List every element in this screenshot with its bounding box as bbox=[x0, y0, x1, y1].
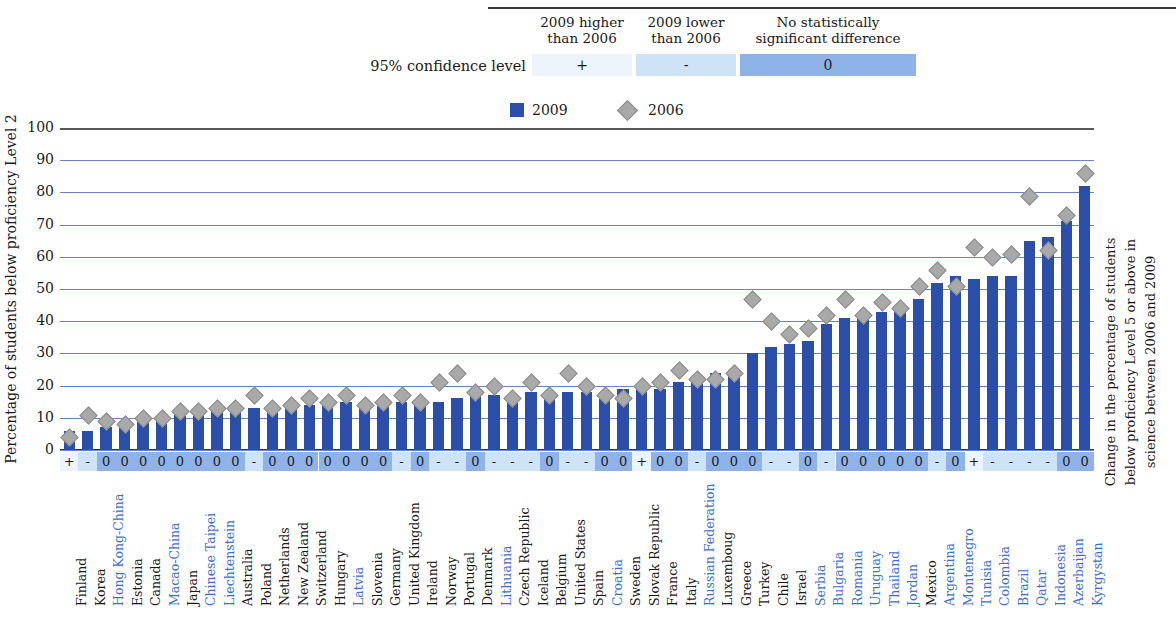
significance-cell: 0 bbox=[152, 452, 170, 471]
significance-header-higher: 2009 higher than 2006 bbox=[532, 14, 632, 46]
significance-header-lower-line2: than 2006 bbox=[636, 30, 736, 46]
significance-strip: +-00000000-0000000-0--0---0--00+00-000--… bbox=[60, 452, 1094, 471]
country-label: Croatia bbox=[610, 559, 625, 606]
country-label: Indonesia bbox=[1053, 544, 1068, 606]
significance-cell-minus: - bbox=[636, 54, 736, 76]
significance-legend-headers: 2009 higher than 2006 2009 lower than 20… bbox=[336, 14, 1056, 52]
bar bbox=[821, 324, 832, 450]
country-label: Russian Federation bbox=[702, 483, 717, 606]
bar bbox=[894, 305, 905, 450]
confidence-level-label: 95% confidence level bbox=[354, 58, 526, 74]
y-tick-40: 40 bbox=[18, 312, 54, 328]
marker-2006 bbox=[522, 374, 540, 392]
gridline-80 bbox=[60, 192, 1094, 193]
y-tick-10: 10 bbox=[18, 409, 54, 425]
bar bbox=[931, 283, 942, 450]
significance-cell: 0 bbox=[891, 452, 909, 471]
significance-header-higher-line1: 2009 higher bbox=[532, 14, 632, 30]
significance-header-lower: 2009 lower than 2006 bbox=[636, 14, 736, 46]
bar bbox=[673, 382, 684, 450]
significance-cell: 0 bbox=[134, 452, 152, 471]
significance-legend: 2009 higher than 2006 2009 lower than 20… bbox=[336, 14, 1056, 86]
significance-cell: 0 bbox=[263, 452, 281, 471]
country-label: Mexico bbox=[924, 560, 939, 606]
significance-cell: 0 bbox=[706, 452, 724, 471]
significance-cell: 0 bbox=[374, 452, 392, 471]
significance-cell: + bbox=[965, 452, 983, 471]
marker-2006 bbox=[744, 290, 762, 308]
plot-area: 0102030405060708090100 bbox=[60, 128, 1094, 450]
country-label: United States bbox=[573, 519, 588, 606]
marker-2006 bbox=[1076, 164, 1094, 182]
marker-2006 bbox=[670, 361, 688, 379]
significance-cell: 0 bbox=[189, 452, 207, 471]
country-label: Germany bbox=[388, 548, 403, 606]
bar bbox=[433, 402, 444, 450]
bar bbox=[1042, 237, 1053, 450]
significance-cell: - bbox=[1002, 452, 1020, 471]
y-tick-100: 100 bbox=[18, 119, 54, 135]
marker-2006 bbox=[559, 364, 577, 382]
significance-cell: 0 bbox=[282, 452, 300, 471]
country-label: Liechtenstein bbox=[222, 520, 237, 606]
significance-cell: 0 bbox=[909, 452, 927, 471]
country-label: Denmark bbox=[480, 548, 495, 606]
country-label: Japan bbox=[185, 570, 200, 606]
bar bbox=[470, 395, 481, 450]
top-rule bbox=[488, 7, 1176, 9]
y-tick-30: 30 bbox=[18, 344, 54, 360]
significance-cell: - bbox=[392, 452, 410, 471]
country-label: Qatar bbox=[1034, 570, 1049, 606]
significance-cell: + bbox=[632, 452, 650, 471]
marker-2006 bbox=[910, 277, 928, 295]
country-label: Serbia bbox=[813, 565, 828, 606]
significance-cell: - bbox=[448, 452, 466, 471]
significance-cell: - bbox=[245, 452, 263, 471]
marker-2006 bbox=[79, 406, 97, 424]
legend-square-icon bbox=[510, 103, 524, 117]
significance-cell: 0 bbox=[97, 452, 115, 471]
country-label: Luxemboug bbox=[720, 532, 735, 606]
country-label: New Zealand bbox=[296, 522, 311, 606]
significance-cell: - bbox=[1039, 452, 1057, 471]
y-tick-20: 20 bbox=[18, 377, 54, 393]
country-label: Argentina bbox=[942, 543, 957, 606]
bar bbox=[636, 389, 647, 450]
significance-cell: - bbox=[503, 452, 521, 471]
significance-cell: 0 bbox=[300, 452, 318, 471]
bar bbox=[784, 344, 795, 450]
country-label: Israel bbox=[794, 570, 809, 606]
country-label: Ireland bbox=[425, 560, 440, 606]
country-label: Hong Kong-China bbox=[111, 494, 126, 606]
significance-cell: 0 bbox=[669, 452, 687, 471]
significance-cell: 0 bbox=[799, 452, 817, 471]
marker-2006 bbox=[781, 325, 799, 343]
significance-cell: - bbox=[817, 452, 835, 471]
significance-header-higher-line2: than 2006 bbox=[532, 30, 632, 46]
country-label: Jordan bbox=[905, 564, 920, 606]
country-label: Portugal bbox=[462, 552, 477, 606]
bar bbox=[304, 405, 315, 450]
marker-2006 bbox=[485, 377, 503, 395]
bar bbox=[581, 392, 592, 450]
gridline-60 bbox=[60, 257, 1094, 258]
significance-cell: 0 bbox=[1076, 452, 1094, 471]
country-label: Macao-China bbox=[167, 522, 182, 606]
significance-cell: 0 bbox=[115, 452, 133, 471]
bar bbox=[968, 279, 979, 450]
country-label: Korea bbox=[93, 569, 108, 606]
significance-cell: - bbox=[688, 452, 706, 471]
bar bbox=[396, 402, 407, 450]
bar bbox=[765, 347, 776, 450]
significance-cell: 0 bbox=[319, 452, 337, 471]
bar bbox=[876, 312, 887, 450]
country-label: Colombia bbox=[997, 546, 1012, 606]
y-axis-title-text: Percentage of students below proficiency… bbox=[3, 114, 19, 463]
country-label: Czech Republic bbox=[517, 508, 532, 606]
bar bbox=[82, 431, 93, 450]
country-label: Azerbaijan bbox=[1071, 538, 1086, 606]
significance-header-lower-line1: 2009 lower bbox=[636, 14, 736, 30]
bar bbox=[488, 395, 499, 450]
bar bbox=[950, 276, 961, 450]
country-label: Australia bbox=[240, 549, 255, 606]
